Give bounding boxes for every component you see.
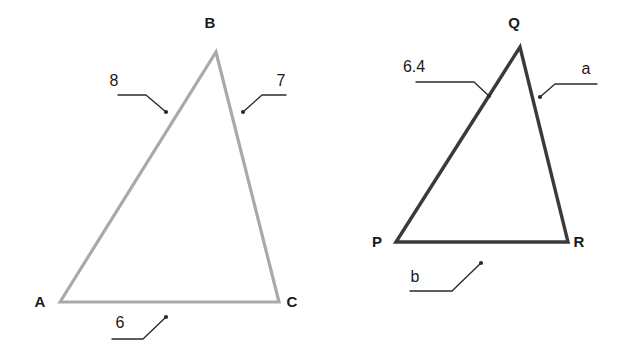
side-label-pqr-pq: 6.4	[403, 58, 425, 75]
similar-triangles-figure: ABC876PQR6.4ab	[0, 0, 620, 352]
figure-background	[0, 0, 620, 352]
leader-dot-abc-bc	[241, 110, 245, 114]
vertex-label-q: Q	[508, 14, 520, 31]
vertex-label-b: B	[205, 14, 216, 31]
vertex-label-a: A	[35, 293, 46, 310]
figure-canvas: ABC876PQR6.4ab	[0, 0, 620, 352]
vertex-label-r: R	[574, 233, 585, 250]
side-label-pqr-qr: a	[582, 60, 591, 77]
vertex-label-p: P	[372, 233, 382, 250]
leader-dot-abc-ac	[164, 315, 168, 319]
side-label-abc-ac: 6	[116, 314, 125, 331]
leader-dot-pqr-pq	[487, 94, 491, 98]
leader-dot-pqr-pr	[479, 261, 483, 265]
side-label-abc-ab: 8	[110, 72, 119, 89]
leader-dot-pqr-qr	[538, 95, 542, 99]
side-label-pqr-pr: b	[411, 268, 420, 285]
side-label-abc-bc: 7	[277, 72, 286, 89]
leader-dot-abc-ab	[164, 110, 168, 114]
vertex-label-c: C	[287, 293, 298, 310]
